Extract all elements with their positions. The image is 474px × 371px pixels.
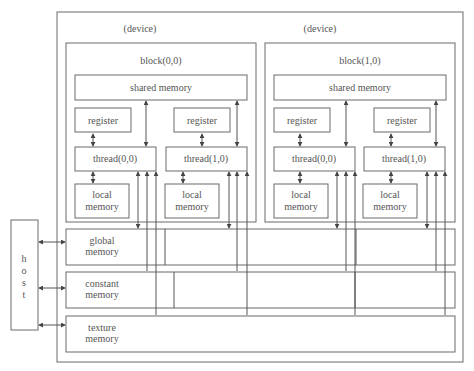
register-label: register (187, 115, 218, 126)
thread-label: thread(1,0) (184, 153, 228, 165)
texture-memory-label: memory (85, 333, 118, 344)
shared-memory-label: shared memory (130, 82, 192, 93)
host-letter: s (22, 277, 26, 288)
global-memory-label: memory (85, 246, 118, 257)
thread-label: thread(1,0) (382, 153, 426, 165)
global-memory-box (66, 229, 455, 265)
device-label-right: (device) (304, 23, 337, 35)
register-label: register (88, 115, 119, 126)
global-memory-label: global (90, 235, 115, 246)
texture-memory-box (66, 316, 455, 352)
host-letter: h (22, 253, 27, 264)
shared-memory-label: shared memory (329, 82, 391, 93)
local-memory-label: memory (85, 201, 118, 212)
texture-memory-label: texture (88, 322, 116, 333)
cuda-memory-model-diagram: (device) (device) block(0,0) shared memo… (0, 0, 474, 371)
constant-memory-box (66, 272, 455, 308)
local-memory-label: local (291, 189, 311, 200)
thread-label: thread(0,0) (93, 153, 137, 165)
device-label-left: (device) (124, 23, 157, 35)
host-letter: o (22, 265, 27, 276)
local-memory-label: local (92, 189, 112, 200)
local-memory-label: local (182, 189, 202, 200)
register-label: register (387, 115, 418, 126)
constant-memory-label: constant (85, 278, 119, 289)
constant-memory-label: memory (85, 289, 118, 300)
local-memory-label: local (380, 189, 400, 200)
host-letter: t (23, 289, 26, 300)
thread-label: thread(0,0) (292, 153, 336, 165)
block-label: block(0,0) (140, 55, 181, 67)
register-label: register (287, 115, 318, 126)
block-0: block(0,0) shared memory register regist… (66, 43, 256, 222)
local-memory-label: memory (175, 201, 208, 212)
local-memory-label: memory (373, 201, 406, 212)
local-memory-label: memory (284, 201, 317, 212)
block-label: block(1,0) (339, 55, 380, 67)
